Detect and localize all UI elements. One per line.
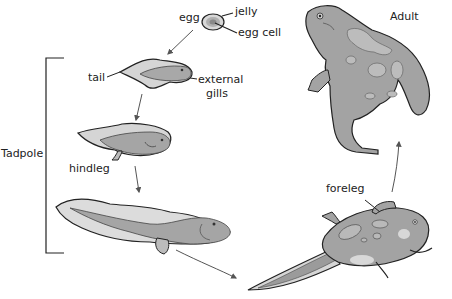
label-egg: egg [179, 12, 200, 24]
tadpole-bracket [46, 58, 64, 253]
tadpole-gills-icon [107, 59, 197, 88]
froglet-icon [248, 201, 432, 290]
tadpole-hindleg-icon [78, 123, 171, 160]
arrow-tadpole3-to-froglet [176, 250, 236, 278]
arrow-tadpole1-to-tadpole2 [136, 94, 142, 120]
frog-life-cycle-diagram [0, 0, 452, 299]
label-gills: gills [206, 88, 228, 100]
tadpole-large-icon [56, 199, 230, 254]
label-external: external [198, 74, 243, 86]
label-hindleg: hindleg [69, 163, 110, 175]
adult-frog-icon [306, 6, 429, 154]
label-foreleg: foreleg [326, 183, 364, 195]
label-adult: Adult [390, 11, 419, 23]
label-egg-cell: egg cell [238, 27, 281, 39]
label-tadpole: Tadpole [1, 148, 43, 160]
arrow-froglet-to-adult [392, 142, 399, 192]
egg-icon [202, 13, 237, 33]
label-tail: tail [88, 72, 105, 84]
arrow-tadpole2-to-tadpole3 [135, 166, 139, 192]
arrow-egg-to-tadpole [168, 30, 193, 54]
label-jelly: jelly [235, 6, 257, 18]
